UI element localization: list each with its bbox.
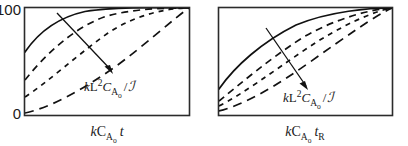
x-axis-C: C xyxy=(97,124,106,139)
y-tick-label-top: 100 xyxy=(0,1,21,18)
x-axis-sub-R: R xyxy=(318,132,325,142)
x-axis-C: C xyxy=(292,124,301,139)
x-axis-sub-o: o xyxy=(308,136,312,145)
annotation-label: kL2CAo/ℐ xyxy=(283,89,336,111)
annotation-C: C xyxy=(102,79,111,94)
annotation-slash: / xyxy=(124,79,128,94)
annotation-label: kL2CAo/ℐ xyxy=(84,78,137,100)
curve-2-dashed xyxy=(25,8,189,80)
curve-4-dashed xyxy=(25,8,189,113)
y-tick-label-bottom: 0 xyxy=(13,105,21,122)
right-panel: kL2CAo/ℐ kCAotR xyxy=(219,8,393,146)
figure-container: 100 0 kL2CAo/ℐ xyxy=(0,0,408,146)
trend-arrow xyxy=(57,13,113,74)
x-axis-t: t xyxy=(120,124,125,139)
annotation-diffusivity-symbol: ℐ xyxy=(327,89,336,105)
annotation-diffusivity-symbol: ℐ xyxy=(128,78,137,94)
annotation-sub-o: o xyxy=(317,102,321,111)
annotation-L: L xyxy=(90,79,98,94)
plot-frame xyxy=(25,8,190,116)
x-axis-sub-o: o xyxy=(113,136,117,145)
curve-1-solid xyxy=(25,8,189,52)
left-panel: 100 0 kL2CAo/ℐ xyxy=(0,1,190,145)
trend-arrow-line xyxy=(57,13,111,70)
annotation-L: L xyxy=(289,90,297,105)
annotation-sub-o: o xyxy=(118,91,122,100)
annotation-C: C xyxy=(301,90,310,105)
trend-arrow xyxy=(266,28,308,90)
annotation-slash: / xyxy=(323,90,327,105)
x-axis-label: kCAotR xyxy=(285,124,325,145)
x-axis-label: kCAot xyxy=(90,124,124,145)
